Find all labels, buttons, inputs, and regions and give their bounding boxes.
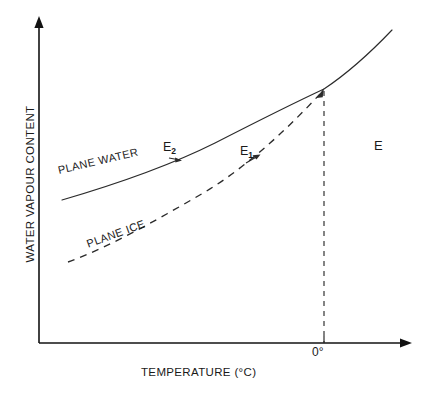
ice-curve-convergence-arrow-icon	[317, 88, 325, 98]
y-axis-label: WATER VAPOUR CONTENT	[24, 74, 36, 294]
e1-subscript-text: 1	[248, 150, 253, 160]
e1-annotation-label: E1	[240, 144, 253, 158]
e2-annotation-label: E2	[163, 140, 176, 154]
chart-plot-area	[0, 0, 421, 395]
figure-canvas: WATER VAPOUR CONTENT TEMPERATURE (°C) 0°…	[0, 0, 421, 395]
x-axis-arrow-icon	[400, 338, 412, 347]
y-axis-arrow-icon	[34, 16, 43, 28]
x-axis-label: TEMPERATURE (°C)	[141, 366, 256, 378]
plane-water-curve	[62, 30, 392, 200]
e2-subscript-text: 2	[171, 146, 176, 156]
x-axis-zero-tick-label: 0°	[312, 345, 323, 359]
e-annotation-label: E	[374, 138, 383, 153]
